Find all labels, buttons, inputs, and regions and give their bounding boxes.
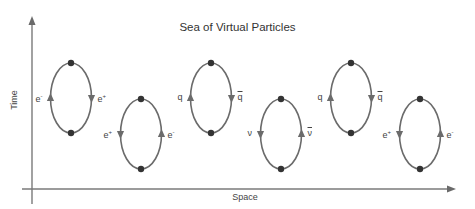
loop-ellipse — [191, 63, 232, 133]
loop-6-right-label: e- — [447, 129, 454, 140]
right-direction-arrow-icon — [368, 95, 375, 103]
loop-5-right-label: q — [378, 93, 383, 102]
loop-1-left-label-charge: - — [41, 93, 43, 99]
top-vertex — [278, 96, 284, 102]
left-direction-arrow-icon — [327, 93, 334, 101]
top-vertex — [417, 96, 423, 102]
loop-4-right-label-symbol: ν — [308, 128, 313, 138]
loop-ellipse — [261, 99, 302, 169]
left-direction-arrow-icon — [187, 93, 194, 101]
loop-6 — [396, 96, 444, 172]
loop-1-right-label-charge: + — [103, 93, 107, 99]
left-direction-arrow-icon — [47, 93, 54, 101]
bottom-vertex — [417, 166, 423, 172]
bottom-vertex — [208, 130, 214, 136]
diagram-title: Sea of Virtual Particles — [0, 21, 475, 33]
loop-4-right-label: ν — [308, 129, 313, 138]
loop-2-left-label: e+ — [104, 129, 113, 140]
left-direction-arrow-icon — [396, 131, 403, 139]
loop-6-left-label: e+ — [383, 129, 392, 140]
left-direction-arrow-icon — [257, 131, 264, 139]
right-direction-arrow-icon — [158, 129, 165, 137]
right-direction-arrow-icon — [88, 95, 95, 103]
loop-2-left-label-charge: + — [109, 129, 113, 135]
bottom-vertex — [278, 166, 284, 172]
loop-2-right-label: e- — [168, 129, 175, 140]
loop-5-right-label-symbol: q — [378, 92, 383, 102]
top-vertex — [348, 60, 354, 66]
top-vertex — [138, 96, 144, 102]
loop-3-left-label: q — [178, 93, 183, 102]
right-direction-arrow-icon — [437, 129, 444, 137]
loop-ellipse — [51, 63, 92, 133]
loop-1 — [47, 60, 95, 136]
bottom-vertex — [138, 166, 144, 172]
loop-2-right-label-charge: - — [173, 129, 175, 135]
loop-6-right-label-charge: - — [452, 129, 454, 135]
loop-ellipse — [331, 63, 372, 133]
loop-2 — [117, 96, 165, 172]
loop-5 — [327, 60, 375, 136]
loop-5-left-label-symbol: q — [318, 92, 323, 102]
loop-3 — [187, 60, 235, 136]
top-vertex — [208, 60, 214, 66]
loop-4 — [257, 96, 305, 172]
loop-3-right-label: q — [238, 93, 243, 102]
loop-5-left-label: q — [318, 93, 323, 102]
loop-6-left-label-charge: + — [388, 129, 392, 135]
loop-ellipse — [400, 99, 441, 169]
loop-3-right-label-symbol: q — [238, 92, 243, 102]
loop-1-left-label: e- — [36, 93, 43, 104]
y-axis-label: Time — [9, 90, 19, 110]
right-direction-arrow-icon — [298, 129, 305, 137]
right-direction-arrow-icon — [228, 95, 235, 103]
left-direction-arrow-icon — [117, 131, 124, 139]
top-vertex — [68, 60, 74, 66]
loop-ellipse — [121, 99, 162, 169]
bottom-vertex — [68, 130, 74, 136]
axes — [22, 16, 456, 204]
loop-4-left-label: ν — [248, 129, 253, 138]
loop-4-left-label-symbol: ν — [248, 128, 253, 138]
x-axis-label: Space — [0, 192, 475, 202]
loop-3-left-label-symbol: q — [178, 92, 183, 102]
loop-1-right-label: e+ — [98, 93, 107, 104]
bottom-vertex — [348, 130, 354, 136]
virtual-particle-loops — [47, 60, 444, 172]
